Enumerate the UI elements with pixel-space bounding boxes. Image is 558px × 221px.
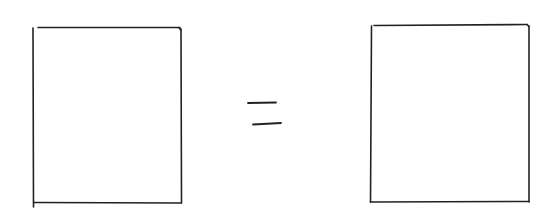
right-rectangle-bottom-edge bbox=[371, 202, 530, 203]
left-rectangle bbox=[33, 28, 182, 208]
right-rectangle bbox=[371, 25, 530, 203]
left-rectangle-bottom-edge bbox=[34, 203, 181, 204]
right-rectangle-top-edge bbox=[374, 25, 527, 26]
left-rectangle-left-edge bbox=[33, 28, 34, 207]
left-rectangle-right-edge bbox=[181, 29, 182, 203]
equals-sign bbox=[248, 103, 281, 125]
right-rectangle-left-edge bbox=[371, 26, 372, 202]
equals-bottom-line bbox=[253, 123, 281, 125]
equals-top-line bbox=[248, 103, 276, 104]
sketch-canvas bbox=[0, 0, 558, 221]
